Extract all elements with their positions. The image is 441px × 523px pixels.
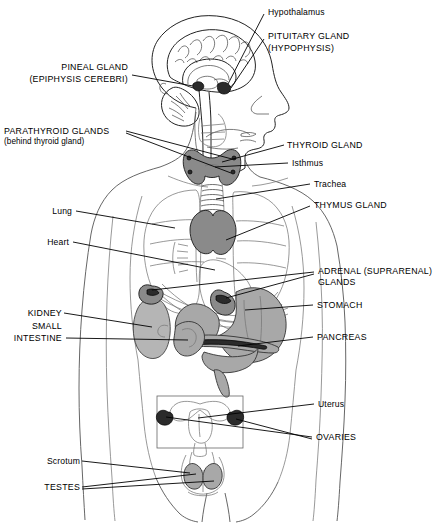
label-small-intestine-alt: INTESTINE — [0, 333, 62, 344]
label-heart: Heart — [0, 237, 69, 248]
pineal-gland-shape — [193, 82, 204, 91]
label-pineal-gland-alt: (EPIPHYSIS CEREBRI) — [0, 74, 128, 85]
label-small-intestine: SMALL — [0, 321, 62, 332]
label-stomach: STOMACH — [317, 300, 363, 311]
label-hypothalamus: Hypothalamus — [268, 7, 325, 18]
kidney-shape — [133, 298, 170, 358]
hypothalamus-shape — [214, 79, 228, 82]
testis-right-shape — [203, 463, 222, 489]
uterus-shape — [189, 409, 213, 443]
parathyroid-gland-shape — [231, 170, 235, 174]
label-pancreas: PANCREAS — [317, 332, 367, 343]
abdominal-organs — [133, 285, 288, 397]
leader-scrotum — [82, 461, 190, 473]
label-adrenal-glands-alt: GLANDS — [318, 277, 356, 288]
label-trachea: Trachea — [314, 179, 346, 190]
label-isthmus: Isthmus — [292, 158, 323, 169]
leader-lung — [76, 211, 175, 228]
label-parathyroid-glands: PARATHYROID GLANDS — [4, 126, 109, 137]
leader-pineal — [132, 75, 193, 86]
label-pineal-gland: PINEAL GLAND — [0, 62, 128, 73]
label-parathyroid-note: (behind thyroid gland) — [4, 137, 84, 148]
label-ovaries: OVARIES — [316, 432, 356, 443]
leader-parathyroid-a — [126, 131, 232, 159]
leader-ovary-right — [236, 419, 312, 439]
reproductive-organs — [156, 396, 243, 496]
label-testes: TESTES — [0, 482, 80, 493]
endocrine-system-diagram: Hypothalamus PITUITARY GLAND (HYPOPHYSIS… — [0, 0, 441, 523]
label-scrotum: Scrotum — [0, 456, 80, 467]
label-thyroid-gland: THYROID GLAND — [287, 140, 363, 151]
leader-hypothalamus — [228, 14, 264, 84]
label-thymus-gland: THYMUS GLAND — [314, 200, 387, 211]
pituitary-gland-shape — [217, 82, 230, 94]
thymus-gland-shape — [190, 210, 236, 254]
label-uterus: Uterus — [318, 399, 344, 410]
testis-left-shape — [184, 463, 203, 489]
leader-uterus — [198, 404, 314, 418]
thyroid-gland-shape — [183, 150, 241, 186]
label-lung: Lung — [0, 206, 72, 217]
label-adrenal-glands: ADRENAL (SUPRARENAL) — [318, 266, 432, 277]
label-pituitary-gland: PITUITARY GLAND — [268, 31, 349, 42]
leader-testis-left — [82, 474, 196, 487]
duodenum-shape — [174, 322, 205, 357]
small-intestine-lower-shape — [214, 370, 229, 397]
parathyroid-gland-shape — [188, 170, 192, 174]
label-kidney: KIDNEY — [0, 308, 62, 319]
trachea-shape — [200, 182, 202, 214]
label-pituitary-gland-alt: (HYPOPHYSIS) — [268, 43, 334, 54]
leader-thymus — [226, 206, 310, 240]
